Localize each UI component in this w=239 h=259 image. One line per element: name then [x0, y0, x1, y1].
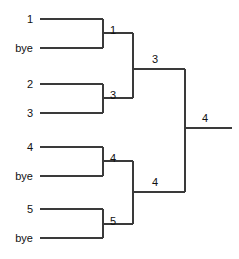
seed-label-bye-1: bye [0, 43, 33, 54]
seed-label-1: 1 [0, 14, 33, 25]
seed-label-5: 5 [0, 204, 33, 215]
winner-label-r1-match-4: 5 [110, 216, 116, 227]
winner-label-champion: 4 [202, 113, 208, 124]
bracket-lines [0, 0, 239, 259]
seed-label-bye-3: bye [0, 233, 33, 244]
seed-label-4: 4 [0, 142, 33, 153]
winner-label-r1-match-3: 4 [110, 153, 116, 164]
winner-label-r1-match-2: 3 [110, 90, 116, 101]
winner-label-r1-match-1: 1 [110, 25, 116, 36]
tournament-bracket: 1 bye 2 3 4 bye 5 bye 1 3 4 5 3 4 4 [0, 0, 239, 259]
seed-label-bye-2: bye [0, 171, 33, 182]
seed-label-2: 2 [0, 79, 33, 90]
winner-label-r2-match-6: 4 [152, 177, 158, 188]
winner-label-r2-match-5: 3 [152, 54, 158, 65]
seed-label-3: 3 [0, 108, 33, 119]
